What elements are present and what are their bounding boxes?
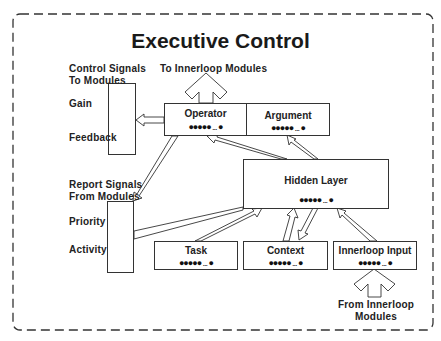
arrow-context-to-hidden [283, 208, 298, 241]
context-label: Context [244, 245, 327, 256]
arrow-operator-to-control [136, 114, 164, 126]
operator-label: Operator [165, 108, 246, 119]
control-signals-label: Control Signals To Modules [69, 63, 146, 87]
report-signals-box [108, 202, 134, 273]
control-signals-line1: Control Signals [69, 63, 146, 75]
hidden-layer-units: ●●●●● ... ● [244, 195, 388, 205]
arrow-to-innerloop-modules [185, 73, 227, 103]
activity-label: Activity [69, 244, 107, 256]
innerloop-input-label: Innerloop Input [334, 245, 416, 256]
from-innerloop-line1: From Innerloop [336, 299, 416, 311]
diagram-title: Executive Control [0, 29, 441, 53]
arrow-from-innerloop-modules [354, 269, 395, 297]
from-innerloop-label: From Innerloop Modules [336, 299, 416, 323]
operator-node: Operator ●●●●● ... ● [164, 103, 247, 136]
arrow-hidden-to-argument [287, 135, 318, 159]
argument-label: Argument [247, 110, 329, 121]
operator-units: ●●●●● ... ● [165, 122, 246, 132]
innerloop-input-node: Innerloop Input ●●●●● ... ● [333, 241, 417, 270]
from-innerloop-line2: Modules [336, 311, 416, 323]
argument-units: ●●●●● ... ● [247, 123, 329, 133]
to-innerloop-label: To Innerloop Modules [160, 63, 267, 75]
report-signals-label: Report Signals From Modules [69, 179, 142, 203]
task-units: ●●●●● ... ● [155, 258, 237, 268]
task-label: Task [155, 245, 237, 256]
argument-node: Argument ●●●●● ... ● [246, 103, 330, 136]
innerloop-input-units: ●●●●● ... ● [334, 258, 416, 268]
feedback-label: Feedback [69, 132, 117, 144]
report-signals-line2: From Modules [69, 191, 142, 203]
hidden-layer-node: Hidden Layer ●●●●● ... ● [243, 159, 389, 209]
arrow-hidden-to-operator [207, 134, 287, 159]
task-node: Task ●●●●● ... ● [154, 241, 238, 270]
arrow-hidden-to-context [298, 208, 318, 240]
arrow-innerloop-to-hidden [337, 208, 377, 241]
gain-label: Gain [69, 98, 92, 110]
context-node: Context ●●●●● ... ● [243, 241, 328, 270]
priority-label: Priority [69, 216, 106, 228]
control-signals-line2: To Modules [69, 75, 146, 87]
context-units: ●●●●● ... ● [244, 258, 327, 268]
arrow-report-to-hidden [134, 207, 243, 239]
hidden-layer-label: Hidden Layer [244, 175, 388, 186]
report-signals-line1: Report Signals [69, 179, 142, 191]
